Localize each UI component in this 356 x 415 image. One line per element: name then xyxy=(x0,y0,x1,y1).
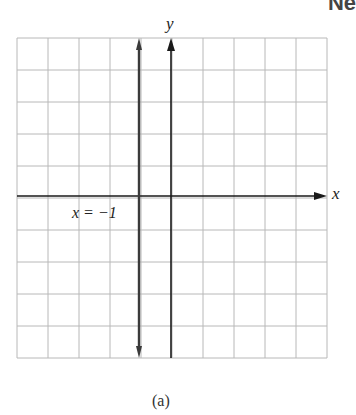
x-axis-label: x xyxy=(332,184,340,204)
line-label: x = −1 xyxy=(72,204,117,222)
x-axis-arrow-icon xyxy=(314,192,327,200)
y-axis-label: y xyxy=(166,14,174,34)
grid-lines xyxy=(17,38,327,358)
y-axis-arrow-icon xyxy=(167,38,175,51)
figure-caption: (a) xyxy=(152,392,170,410)
